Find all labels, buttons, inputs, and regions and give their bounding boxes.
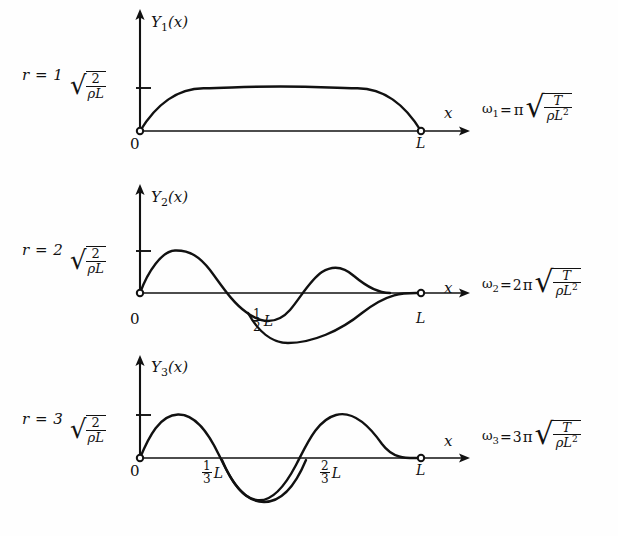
node-marker-2-0 [137,290,143,296]
mode-panel-3: r = 3 √ 2 ρL Y3(x) 0 x 1 3 L [0,350,618,536]
node-marker-1-L [418,128,424,134]
mode-2-curve [140,250,390,321]
node-marker-1-0 [137,128,143,134]
mode-3-curve-trough [222,460,306,502]
mode-2-plot [0,175,618,355]
node-marker-3-L [418,455,424,461]
node-marker-3-0 [137,455,143,461]
figure-canvas: r = 1 √ 2 ρL Y1(x) 0 x L ω1 = π √ [0,0,618,536]
mode-2-curve-tail [248,293,421,343]
mode-3-plot [0,350,618,536]
mode-panel-1: r = 1 √ 2 ρL Y1(x) 0 x L ω1 = π √ [0,0,618,180]
mode-panel-2: r = 2 √ 2 ρL Y2(x) 0 x 1 2 L L [0,175,618,355]
mode-1-plot [0,0,618,180]
mode-1-curve [140,87,421,132]
node-marker-2-L [418,290,424,296]
